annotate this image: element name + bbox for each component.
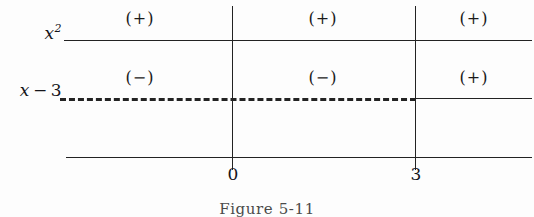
sign-x-squared-middle: (+): [300, 9, 346, 28]
tick-label-zero: 0: [221, 164, 245, 184]
sign-x-minus-3-left: (−): [117, 68, 163, 87]
sign-x-minus-3-middle: (−): [300, 68, 346, 87]
figure-caption: Figure 5-11: [0, 200, 534, 217]
sign-x-squared-right: (+): [451, 9, 497, 28]
minus-operator: −: [30, 80, 51, 100]
number-line-x-minus-3-solid-segment: [415, 98, 532, 99]
row-label-x-squared-exponent: 2: [55, 22, 63, 35]
number-line-axis: [66, 157, 532, 158]
number-line-x-squared: [64, 40, 532, 41]
sign-x-minus-3-right: (+): [451, 68, 497, 87]
row-label-x-squared: x2: [0, 22, 62, 43]
row-label-x-minus-3: x−3: [0, 80, 62, 100]
divider-line-zero: [232, 6, 233, 170]
tick-label-three: 3: [404, 164, 428, 184]
sign-x-squared-left: (+): [117, 9, 163, 28]
row-label-x-minus-3-base: x: [20, 80, 30, 100]
sign-chart-figure: x2 x−3 0 3 (+) (+) (+) (−) (−) (+) Figur…: [0, 0, 534, 217]
row-label-x-squared-base: x: [44, 23, 54, 43]
number-line-x-minus-3-dashed-segment: [60, 98, 416, 101]
divider-line-three: [415, 6, 416, 170]
row-label-x-minus-3-constant: 3: [51, 80, 62, 100]
